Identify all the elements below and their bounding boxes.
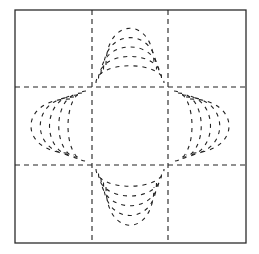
arc-right-2 bbox=[178, 93, 201, 159]
arc-bottom-4 bbox=[104, 183, 157, 216]
arc-bottom-5 bbox=[106, 187, 154, 225]
arc-families bbox=[31, 28, 229, 225]
arc-left-1 bbox=[68, 91, 86, 161]
arc-bottom-3 bbox=[101, 178, 159, 206]
arc-top-1 bbox=[96, 66, 164, 83]
arc-bottom-2 bbox=[99, 174, 162, 197]
arc-left-3 bbox=[50, 95, 79, 157]
arc-right-4 bbox=[186, 97, 220, 155]
arc-left-5 bbox=[31, 99, 70, 153]
arc-left-2 bbox=[59, 93, 82, 159]
arc-left-4 bbox=[40, 97, 74, 155]
arc-top-5 bbox=[106, 28, 154, 65]
arc-right-3 bbox=[182, 95, 211, 157]
arc-right-5 bbox=[190, 99, 229, 153]
arc-top-2 bbox=[99, 56, 162, 78]
arc-bottom-1 bbox=[96, 169, 164, 186]
arc-right-1 bbox=[174, 91, 192, 161]
diagram-canvas bbox=[0, 0, 259, 254]
arc-top-4 bbox=[104, 38, 157, 70]
cross-arc-diagram bbox=[0, 0, 259, 254]
